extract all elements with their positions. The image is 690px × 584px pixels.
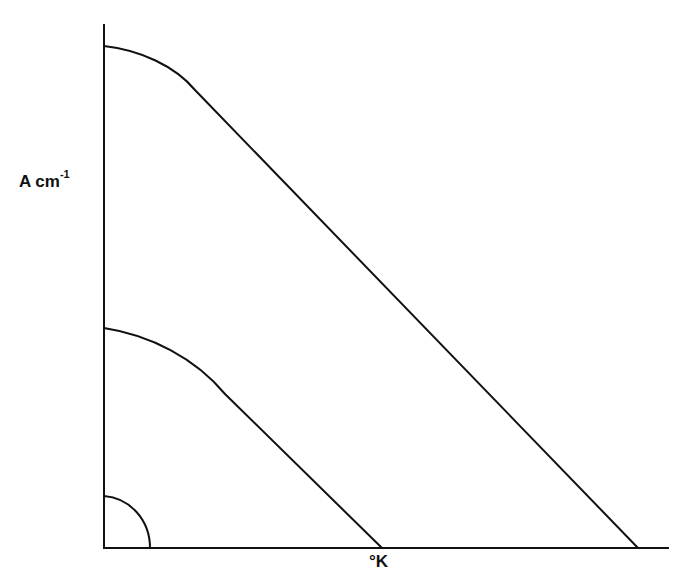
y-axis-label: A cm-1 bbox=[19, 170, 70, 192]
x-axis-label: °K bbox=[369, 552, 388, 572]
curve-small bbox=[104, 496, 150, 548]
curve-medium bbox=[104, 328, 382, 548]
y-axis-label-exponent: -1 bbox=[60, 168, 70, 180]
chart-plot-area bbox=[0, 0, 690, 584]
curve-large bbox=[104, 46, 638, 548]
